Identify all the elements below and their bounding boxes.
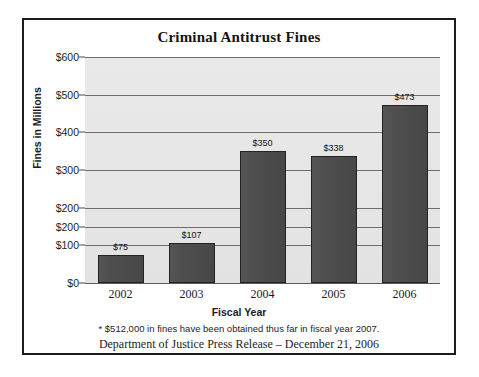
y-axis-tick-label: $200: [27, 221, 79, 233]
bar-value-label: $350: [252, 138, 272, 148]
bar-slot: $107: [156, 57, 227, 283]
bar[interactable]: [240, 151, 286, 283]
bar-value-label: $107: [181, 230, 201, 240]
x-axis-tick-label: 2006: [393, 287, 417, 302]
y-axis-tick-label: $200: [27, 202, 79, 214]
bar[interactable]: [382, 105, 428, 283]
bar[interactable]: [169, 243, 215, 283]
chart-figure: Criminal Antitrust Fines Fines in Millio…: [0, 0, 479, 377]
y-axis-tick-label: $600: [27, 51, 79, 63]
bar[interactable]: [311, 156, 357, 283]
y-axis-tick-labels: $600$500$400$300$200$200$100$0: [25, 57, 79, 283]
x-axis-tick-labels: 20022003200420052006: [85, 287, 440, 303]
x-axis-tick-label: 2003: [180, 287, 204, 302]
x-axis-tick-label: 2002: [109, 287, 133, 302]
x-axis-title: Fiscal Year: [22, 306, 456, 318]
bar-slot: $338: [298, 57, 369, 283]
bar-value-label: $473: [394, 92, 414, 102]
footnote-line-2: Department of Justice Press Release – De…: [22, 337, 456, 352]
bar-slot: $75: [85, 57, 156, 283]
bar-value-label: $75: [113, 242, 128, 252]
gridline: [85, 283, 440, 284]
x-axis-tick-label: 2004: [251, 287, 275, 302]
bar-value-label: $338: [323, 143, 343, 153]
bars-group: $75$107$350$338$473: [85, 57, 440, 283]
y-axis-tick-label: $100: [27, 239, 79, 251]
y-axis-tick-label: $500: [27, 89, 79, 101]
y-axis-tick-label: $400: [27, 126, 79, 138]
x-axis-tick-label: 2005: [322, 287, 346, 302]
bar-slot: $350: [227, 57, 298, 283]
bar-slot: $473: [369, 57, 440, 283]
y-axis-tick-label: $300: [27, 164, 79, 176]
chart-title: Criminal Antitrust Fines: [22, 29, 456, 46]
footnote-line-1: * $512,000 in fines have been obtained t…: [22, 323, 456, 334]
y-axis-tick-label: $0: [27, 277, 79, 289]
bar[interactable]: [98, 255, 144, 283]
